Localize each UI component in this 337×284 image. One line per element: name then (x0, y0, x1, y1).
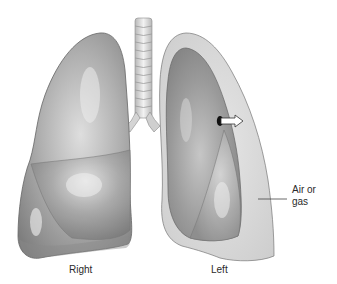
air-label-line1: Air or (292, 184, 332, 196)
right-lung-label: Right (69, 264, 92, 276)
air-label-line2: gas (292, 196, 332, 208)
right-lung (18, 33, 132, 258)
pneumothorax-diagram (0, 0, 337, 284)
trachea (124, 18, 160, 132)
air-or-gas-label: Air or gas (292, 184, 332, 208)
left-lung-label: Left (211, 264, 228, 276)
